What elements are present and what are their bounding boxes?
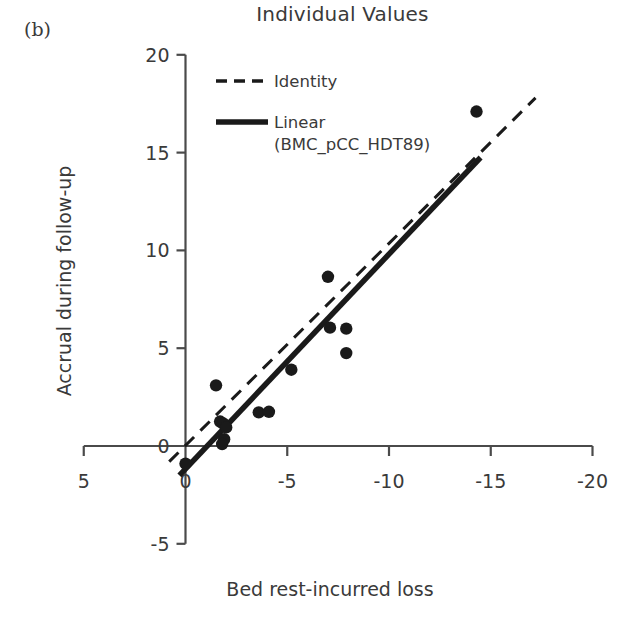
data-point-group (179, 105, 482, 469)
x-tick-label: -20 (577, 470, 608, 492)
x-tick-label: -10 (373, 470, 404, 492)
y-tick-label: 5 (157, 337, 169, 359)
data-point (285, 364, 297, 376)
y-tick-label: 10 (145, 239, 169, 261)
y-tick-label: 15 (145, 142, 169, 164)
x-tick-label: 5 (78, 470, 90, 492)
data-point (216, 438, 228, 450)
legend-linear-sublabel: (BMC_pCC_HDT89) (274, 135, 430, 155)
data-point (340, 322, 352, 334)
legend-identity-label: Identity (274, 72, 337, 91)
y-tick-label: 20 (145, 44, 169, 66)
x-tick-label: -5 (278, 470, 297, 492)
figure-panel: (b) Individual Values Accrual during fol… (0, 0, 625, 626)
data-point (470, 105, 482, 117)
data-point (324, 321, 336, 333)
data-point (220, 421, 232, 433)
y-tick-label: 0 (157, 435, 169, 457)
data-point (210, 379, 222, 391)
x-tick-label: -15 (475, 470, 506, 492)
data-point (263, 406, 275, 418)
y-tick-label: -5 (151, 533, 170, 555)
legend-linear-label: Linear (274, 113, 325, 132)
scatter-plot-canvas: 20151050-5 50-5-10-15-20 Identity Linear… (0, 0, 625, 626)
axes-group (84, 55, 593, 544)
legend: Identity Linear (BMC_pCC_HDT89) (216, 72, 430, 155)
data-point (340, 347, 352, 359)
data-point (322, 271, 334, 283)
data-point (179, 457, 191, 469)
